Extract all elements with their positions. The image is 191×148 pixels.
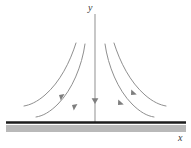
- left-inner-curve-arrowhead: [70, 102, 78, 111]
- left-outer-curve-arrowhead: [57, 92, 65, 101]
- right-outer-curve: [114, 43, 166, 106]
- x-axis-shadow-band: [6, 125, 186, 132]
- figure-canvas: y x: [0, 0, 191, 148]
- x-axis-label: x: [178, 133, 182, 143]
- diagram-svg: [0, 0, 191, 148]
- right-inner-curve: [105, 44, 154, 117]
- left-inner-curve: [36, 44, 85, 117]
- left-outer-curve: [24, 43, 76, 106]
- right-outer-curve-arrowhead: [128, 89, 136, 98]
- y-axis-flow-arrow-icon: [92, 98, 99, 104]
- right-inner-curve-arrowhead: [115, 99, 123, 108]
- y-axis-label: y: [88, 3, 92, 13]
